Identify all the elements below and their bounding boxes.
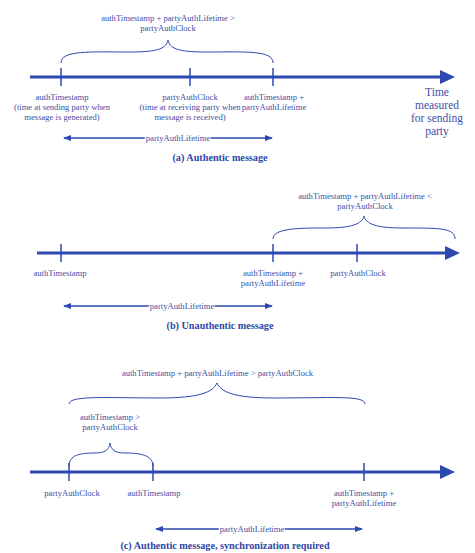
panel-b-condition: authTimestamp + partyAuthLifetime < part… bbox=[275, 191, 455, 211]
axis-label-line: measured bbox=[402, 99, 472, 112]
condition-line: authTimestamp + partyAuthLifetime > part… bbox=[90, 368, 345, 378]
panel-a-caption: (a) Authentic message bbox=[172, 152, 267, 163]
tick-note: (time at sending party when bbox=[6, 102, 118, 112]
panel-b-graphics bbox=[37, 216, 460, 306]
panel-a-graphics bbox=[30, 40, 455, 138]
tick-label: authTimestamp + bbox=[232, 268, 314, 278]
panel-a-span-label: partyAuthLifetime bbox=[145, 133, 211, 143]
tick-label: partyAuthClock bbox=[32, 488, 112, 498]
panel-a-axis-label: Time measured for sending party bbox=[402, 86, 472, 138]
panel-b-span-label: partyAuthLifetime bbox=[149, 301, 215, 311]
tick-label: partyAuthLifetime bbox=[232, 278, 314, 288]
panel-c-tick-authtimestamp: authTimestamp bbox=[114, 488, 194, 498]
tick-label: authTimestamp + bbox=[322, 488, 406, 498]
axis-label-line: Time bbox=[402, 86, 472, 99]
tick-note: message is received) bbox=[132, 112, 248, 122]
tick-label: partyAuthClock bbox=[320, 268, 396, 278]
tick-label: partyAuthLifetime bbox=[322, 498, 406, 508]
panel-c-span-label: partyAuthLifetime bbox=[219, 524, 285, 534]
panel-a-tick-authtimestamp: authTimestamp (time at sending party whe… bbox=[6, 92, 118, 122]
panel-a-tick-partyauthclock: partyAuthClock (time at receiving party … bbox=[132, 92, 248, 122]
panel-b-tick-authtimestamp: authTimestamp bbox=[20, 268, 100, 278]
tick-label: authTimestamp bbox=[6, 92, 118, 102]
tick-label: authTimestamp bbox=[114, 488, 194, 498]
condition-line-2: partyAuthClock bbox=[78, 23, 258, 33]
panel-c-condition-outer: authTimestamp + partyAuthLifetime > part… bbox=[90, 368, 345, 378]
tick-note: message is generated) bbox=[6, 112, 118, 122]
panel-c-tick-lifetime-end: authTimestamp + partyAuthLifetime bbox=[322, 488, 406, 508]
condition-line-2: partyAuthClock bbox=[275, 201, 455, 211]
panel-c-condition-inner: authTimestamp > partyAuthClock bbox=[60, 412, 160, 432]
panel-b-caption: (b) Unauthentic message bbox=[167, 320, 274, 331]
axis-label-line: for sending bbox=[402, 112, 472, 125]
panel-b-tick-partyauthclock: partyAuthClock bbox=[320, 268, 396, 278]
panel-c-caption: (c) Authentic message, synchronization r… bbox=[120, 540, 329, 551]
condition-line-1: authTimestamp + partyAuthLifetime > bbox=[78, 13, 258, 23]
tick-label: authTimestamp + bbox=[236, 92, 312, 102]
panel-b-tick-lifetime-end: authTimestamp + partyAuthLifetime bbox=[232, 268, 314, 288]
condition-line-2: partyAuthClock bbox=[60, 422, 160, 432]
tick-label: partyAuthLifetime bbox=[236, 102, 312, 112]
condition-line-1: authTimestamp > bbox=[60, 412, 160, 422]
tick-label: partyAuthClock bbox=[132, 92, 248, 102]
panel-a-tick-lifetime-end: authTimestamp + partyAuthLifetime bbox=[236, 92, 312, 112]
panel-a-condition: authTimestamp + partyAuthLifetime > part… bbox=[78, 13, 258, 33]
tick-label: authTimestamp bbox=[20, 268, 100, 278]
tick-note: (time at receiving party when bbox=[132, 102, 248, 112]
axis-label-line: party bbox=[402, 125, 472, 138]
condition-line-1: authTimestamp + partyAuthLifetime < bbox=[275, 191, 455, 201]
panel-c-tick-partyauthclock: partyAuthClock bbox=[32, 488, 112, 498]
